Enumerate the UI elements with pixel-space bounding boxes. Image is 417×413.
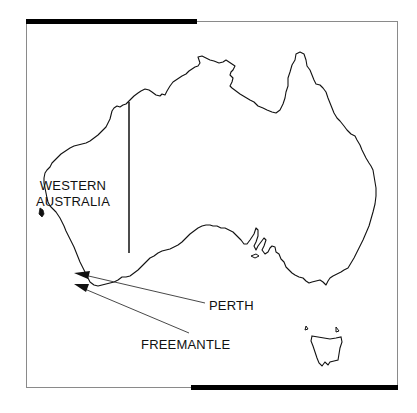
callout-label-freemantle: FREEMANTLE bbox=[141, 337, 230, 353]
perth-arrow-icon bbox=[74, 271, 90, 279]
perth-callout-line bbox=[80, 274, 205, 303]
kangaroo-island bbox=[251, 254, 259, 258]
australia-mainland-outline bbox=[44, 52, 376, 286]
region-label-western-australia: WESTERN AUSTRALIA bbox=[36, 178, 110, 210]
freemantle-arrow-icon bbox=[74, 284, 89, 292]
tasmania-outline bbox=[311, 336, 342, 366]
flinders-island bbox=[336, 327, 339, 332]
callout-label-perth: PERTH bbox=[209, 298, 254, 314]
region-label-line1: WESTERN bbox=[36, 178, 110, 194]
region-label-line2: AUSTRALIA bbox=[36, 194, 110, 210]
king-island bbox=[305, 326, 308, 330]
freemantle-callout-line bbox=[80, 287, 189, 333]
